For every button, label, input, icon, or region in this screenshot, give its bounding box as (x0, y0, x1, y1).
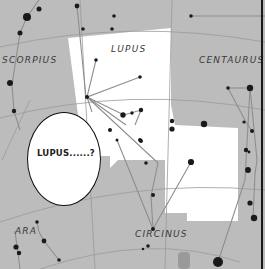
star-chart-panel: SCORPIUS LUPUS CENTAURUS ARA CIRCINUS LU… (0, 0, 265, 269)
speech-bubble-text: LUPUS......? (37, 148, 95, 158)
speech-bubble: LUPUS......? (27, 112, 101, 206)
label-scorpius: SCORPIUS (2, 55, 57, 65)
label-centaurus: CENTAURUS (199, 55, 264, 65)
grey-patch (178, 252, 190, 269)
label-circinus: CIRCINUS (135, 229, 188, 239)
label-lupus: LUPUS (111, 44, 146, 54)
label-ara: ARA (15, 226, 37, 236)
panel-border (261, 0, 263, 269)
